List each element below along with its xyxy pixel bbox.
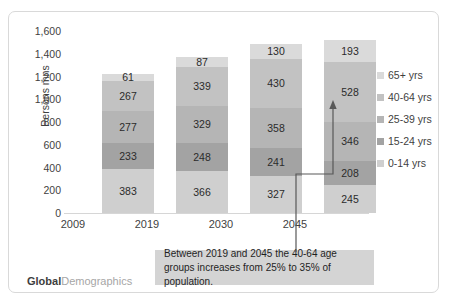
bar-column-2030[interactable]: 130430358241327 bbox=[250, 44, 302, 213]
bar-value-label: 528 bbox=[341, 86, 359, 98]
bar-value-label: 208 bbox=[341, 167, 359, 179]
bar-segment[interactable]: 267 bbox=[102, 81, 154, 111]
bar-value-label: 241 bbox=[267, 156, 285, 168]
bar-series-container: 6126727723338387339329248366130430358241… bbox=[64, 31, 364, 213]
y-tick-200: 200 bbox=[43, 184, 61, 196]
x-tick-2030: 2030 bbox=[186, 218, 256, 230]
bar-segment[interactable]: 277 bbox=[102, 111, 154, 143]
bar-value-label: 87 bbox=[196, 56, 208, 68]
bar-segment[interactable]: 339 bbox=[176, 67, 228, 106]
legend-label: 0-14 yrs bbox=[388, 157, 426, 170]
bar-segment[interactable]: 528 bbox=[324, 62, 376, 122]
annotation-text: Between 2019 and 2045 the 40-64 age grou… bbox=[164, 247, 365, 289]
bar-value-label: 130 bbox=[267, 45, 285, 57]
x-tick-2009: 2009 bbox=[38, 218, 108, 230]
bar-segment[interactable]: 327 bbox=[250, 176, 302, 213]
legend-swatch-icon bbox=[377, 72, 384, 79]
legend-item[interactable]: 40-64 yrs bbox=[377, 91, 443, 104]
bar-value-label: 346 bbox=[341, 135, 359, 147]
bar-value-label: 329 bbox=[193, 118, 211, 130]
legend-label: 25-39 yrs bbox=[388, 113, 432, 126]
annotation-callout: Between 2019 and 2045 the 40-64 age grou… bbox=[155, 250, 374, 285]
bar-value-label: 193 bbox=[341, 45, 359, 57]
legend-label: 65+ yrs bbox=[388, 69, 423, 82]
legend-swatch-icon bbox=[377, 94, 384, 101]
plot-area: 6126727723338387339329248366130430358241… bbox=[64, 31, 364, 213]
x-axis-line bbox=[64, 213, 369, 214]
y-tick-1600: 1,600 bbox=[35, 25, 61, 37]
bar-value-label: 245 bbox=[341, 193, 359, 205]
legend-swatch-icon bbox=[377, 138, 384, 145]
legend-swatch-icon bbox=[377, 160, 384, 167]
bar-value-label: 339 bbox=[193, 80, 211, 92]
bar-value-label: 430 bbox=[267, 77, 285, 89]
bar-segment[interactable]: 329 bbox=[176, 106, 228, 143]
bar-segment[interactable]: 358 bbox=[250, 108, 302, 149]
x-tick-2045: 2045 bbox=[260, 218, 330, 230]
y-tick-600: 600 bbox=[43, 139, 61, 151]
bar-segment[interactable]: 430 bbox=[250, 59, 302, 108]
chart-legend: 65+ yrs40-64 yrs25-39 yrs15-24 yrs0-14 y… bbox=[377, 69, 443, 179]
legend-swatch-icon bbox=[377, 116, 384, 123]
bar-value-label: 277 bbox=[119, 121, 137, 133]
bar-value-label: 267 bbox=[119, 90, 137, 102]
bar-value-label: 358 bbox=[267, 122, 285, 134]
bar-segment[interactable]: 208 bbox=[324, 161, 376, 185]
bar-segment[interactable]: 245 bbox=[324, 185, 376, 213]
bar-value-label: 366 bbox=[193, 186, 211, 198]
legend-item[interactable]: 0-14 yrs bbox=[377, 157, 443, 170]
bar-column-2045[interactable]: 193528346208245 bbox=[324, 40, 376, 213]
legend-label: 15-24 yrs bbox=[388, 135, 432, 148]
bar-segment[interactable]: 241 bbox=[250, 148, 302, 175]
y-tick-400: 400 bbox=[43, 162, 61, 174]
legend-label: 40-64 yrs bbox=[388, 91, 432, 104]
bar-segment[interactable]: 233 bbox=[102, 143, 154, 170]
bar-value-label: 233 bbox=[119, 150, 137, 162]
x-tick-2019: 2019 bbox=[112, 218, 182, 230]
bar-segment[interactable]: 248 bbox=[176, 143, 228, 171]
bar-value-label: 248 bbox=[193, 151, 211, 163]
legend-item[interactable]: 25-39 yrs bbox=[377, 113, 443, 126]
bar-segment[interactable]: 87 bbox=[176, 57, 228, 67]
bar-value-label: 383 bbox=[119, 185, 137, 197]
bar-segment[interactable]: 61 bbox=[102, 74, 154, 81]
bar-value-label: 327 bbox=[267, 188, 285, 200]
brand-light: Demographics bbox=[61, 275, 132, 287]
bar-segment[interactable]: 193 bbox=[324, 40, 376, 62]
bar-column-2009[interactable]: 61267277233383 bbox=[102, 74, 154, 213]
brand-logo: GlobalDemographics bbox=[27, 275, 132, 287]
bar-segment[interactable]: 366 bbox=[176, 171, 228, 213]
bar-column-2019[interactable]: 87339329248366 bbox=[176, 57, 228, 213]
chart-frame: 1,600 1,400 1,200 1,000 800 600 400 200 … bbox=[8, 11, 439, 293]
legend-item[interactable]: 15-24 yrs bbox=[377, 135, 443, 148]
brand-bold: Global bbox=[27, 275, 61, 287]
bar-segment[interactable]: 346 bbox=[324, 122, 376, 161]
bar-segment[interactable]: 383 bbox=[102, 169, 154, 213]
bar-segment[interactable]: 130 bbox=[250, 44, 302, 59]
y-axis-title: Persons mns bbox=[39, 56, 51, 136]
legend-item[interactable]: 65+ yrs bbox=[377, 69, 443, 82]
